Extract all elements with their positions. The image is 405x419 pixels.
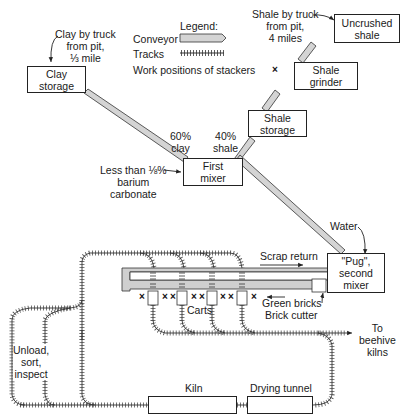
clay-ratio-label: 60% clay [170,130,191,154]
legend-conveyor-label: Conveyor [133,33,178,45]
legend-stacker-icon: × [272,65,278,75]
unload-sort-inspect-label: Unload, sort, inspect [13,344,49,380]
extrusion-line [122,268,330,292]
shale-grinder-box: Shale grinder [294,62,358,90]
water-label: Water [330,220,358,232]
stacker-mark: × [191,292,197,302]
stacker-mark: × [139,292,145,302]
stacker-mark: × [170,292,176,302]
first-mixer-box: First mixer [183,158,243,186]
barium-label: Less than ⅛% barium carbonate [100,164,167,200]
kiln-box [148,396,237,414]
drying-tunnel-box [247,396,313,414]
beehive-kilns-label: To beehive kilns [359,322,396,358]
kiln-label: Kiln [185,382,203,394]
scrap-return-label: Scrap return [260,250,318,262]
brick-plant-flow-diagram: Legend: Conveyor Tracks Work positions o… [0,0,405,419]
legend-tracks-label: Tracks [133,48,164,60]
stacker-mark: × [220,292,226,302]
pug-mixer-box: "Pug", second mixer [327,253,385,293]
stacker-mark: × [251,292,257,302]
shale-ratio-label: 40% shale [213,130,238,154]
clay-storage-box: Clay storage [27,66,86,93]
stacker-mark: × [228,292,234,302]
stacker-mark: × [162,292,168,302]
shale-storage-box: Shale storage [248,110,307,137]
legend-stackers-label: Work positions of stackers [133,64,255,76]
drying-tunnel-label: Drying tunnel [250,382,312,394]
brick-cutter-label: Brick cutter [265,309,318,321]
carts-label: Carts [187,304,212,316]
stacker-mark: × [199,292,205,302]
clay-source-label: Clay by truck from pit, ⅓ mile [55,28,116,64]
legend-title: Legend: [180,20,218,32]
green-bricks-label: Green bricks [262,297,322,309]
shale-source-label: Shale by truck from pit, 4 miles [252,8,319,44]
uncrushed-shale-box: Uncrushed shale [334,14,400,43]
